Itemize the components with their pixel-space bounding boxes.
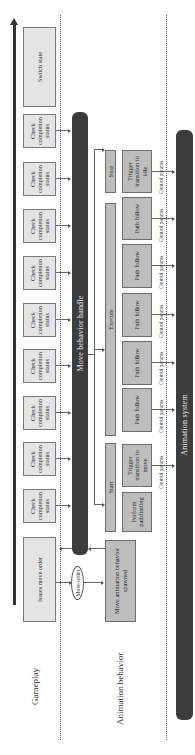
arrow-icon <box>68 224 71 228</box>
move-order-message: Move order <box>71 566 84 600</box>
check-completion-box: Check completion status <box>23 442 56 476</box>
arrow-icon <box>101 581 104 585</box>
lane-divider <box>166 15 167 740</box>
check-completion-box: Check completion status <box>23 396 56 430</box>
move-animation-behavior-spawned-box: Move animation behavior spawned <box>105 540 136 622</box>
check-completion-box: Check completion status <box>23 349 56 383</box>
start-phase-bar: Start <box>105 443 116 532</box>
arrow-icon <box>172 361 175 365</box>
arrow-icon <box>172 217 175 221</box>
arrow-icon <box>172 264 175 268</box>
timeline-arrow <box>13 23 16 605</box>
arrow-icon <box>59 547 62 551</box>
diagram-canvas: Issues move order Check completion statu… <box>0 0 195 755</box>
lane-label-animation-behavior: Animation behavior <box>115 653 125 725</box>
check-completion-box: Check completion status <box>23 256 56 290</box>
check-completion-box: Check completion status <box>23 209 56 243</box>
arrow-icon <box>68 364 71 368</box>
control-params-label: Control params <box>158 352 164 385</box>
stop-phase-bar: Stop <box>105 150 116 193</box>
control-params-label: Control params <box>158 305 164 338</box>
arrow-icon <box>68 504 71 508</box>
brace <box>94 150 95 505</box>
arrow-icon <box>68 457 71 461</box>
path-follow-box: Path follow <box>122 341 152 385</box>
control-params-label: Control params <box>158 209 164 242</box>
path-follow-box: Path follow <box>122 293 152 337</box>
execute-phase-bar: Execute <box>105 203 116 436</box>
arrow-icon <box>68 411 71 415</box>
path-follow-box: Path follow <box>122 197 152 240</box>
connector <box>90 548 105 549</box>
arrow-icon <box>172 464 175 468</box>
arrow-icon <box>68 271 71 275</box>
perform-pathfinding-box: Perform pathfinding <box>122 492 152 532</box>
arrow-icon <box>172 408 175 412</box>
switch-state-box: Switch state <box>23 27 56 107</box>
control-params-label: Control params <box>158 400 164 433</box>
control-params-label: Control params <box>158 456 164 489</box>
control-params-label: Control params <box>158 161 164 194</box>
check-completion-box: Check completion status <box>23 162 56 196</box>
lane-label-gameplay: Gameplay <box>30 668 40 705</box>
control-params-label: Control params <box>158 256 164 289</box>
arrow-icon <box>68 129 71 133</box>
animation-system-bar: Animation system <box>176 130 193 720</box>
arrow-icon <box>68 318 71 322</box>
arrow-icon <box>172 170 175 174</box>
issues-move-order-box: Issues move order <box>23 537 56 622</box>
timeline-arrowhead-icon <box>10 18 18 25</box>
move-behavior-handle-bar: Move behavior handle <box>72 112 88 555</box>
connector <box>62 548 72 549</box>
connector <box>84 582 102 583</box>
check-completion-box: Check completion status <box>23 489 56 523</box>
arrow-icon <box>88 547 91 551</box>
arrow-icon <box>172 313 175 317</box>
path-follow-box: Path follow <box>122 244 152 288</box>
trigger-transition-to-idle-box: Trigger transition to idle <box>122 150 152 193</box>
check-completion-box: Check completion status <box>23 303 56 337</box>
lane-divider <box>60 15 61 740</box>
arrow-icon <box>68 177 71 181</box>
check-completion-box: Check completion status <box>23 114 56 148</box>
trigger-transition-to-move-box: Trigger transition to move <box>122 444 152 487</box>
path-follow-box: Path follow <box>122 388 152 432</box>
